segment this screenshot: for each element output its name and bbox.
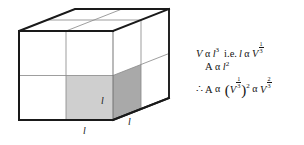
therefore-symbol: ∴ (196, 83, 203, 94)
exponent-denominator: 3 (259, 48, 264, 54)
equation-line-2: Aαl2 (196, 62, 302, 73)
equation-block: Vαl3i.e.lαV13 Aαl2 ∴Aα(V13)2αV23 (196, 40, 302, 95)
close-paren: ) (241, 81, 246, 97)
shaded-front-cell (66, 76, 113, 121)
area-symbol-2: A (205, 83, 213, 94)
equation-line-3: ∴Aα(V13)2αV23 (196, 76, 302, 95)
final-exponent-denominator: 3 (267, 83, 272, 89)
exponent-one-third: 13 (259, 41, 264, 54)
proportional-symbol-4: α (213, 83, 223, 94)
length-label-front-cell: l (101, 95, 104, 106)
proportional-symbol-5: α (250, 83, 260, 94)
proportional-symbol: α (202, 48, 212, 59)
area-symbol: A (205, 61, 213, 72)
length-label-depth-edge: l (128, 116, 131, 127)
ie-connector: i.e. (224, 48, 237, 59)
length-exponent: 3 (216, 46, 220, 54)
length-exponent-2: 2 (226, 60, 230, 68)
length-label-bottom-edge: l (83, 125, 86, 136)
parenthesized-group: (V13) (225, 76, 247, 95)
inner-exponent-denominator: 3 (236, 83, 241, 89)
proportional-symbol-3: α (213, 61, 223, 72)
proportional-symbol-2: α (242, 48, 252, 59)
equation-line-1: Vαl3i.e.lαV13 (196, 40, 302, 59)
exponent-two-thirds: 23 (267, 76, 272, 89)
inner-exponent-one-third: 13 (236, 76, 241, 89)
